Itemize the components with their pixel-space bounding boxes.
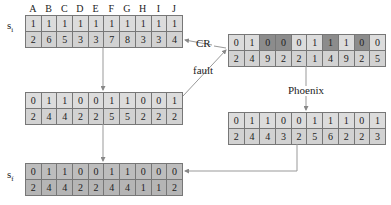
edge-label-fault: fault [193,64,213,76]
connector-lines [0,0,391,205]
edge-label-cr: CR [196,37,211,49]
edge-label-phoenix: Phoenix [288,84,324,96]
